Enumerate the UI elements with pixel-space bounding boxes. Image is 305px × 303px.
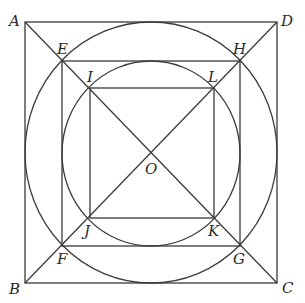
label-i: I: [86, 68, 94, 86]
label-d: D: [280, 12, 293, 30]
label-b: B: [8, 280, 20, 298]
label-j: J: [81, 222, 91, 240]
label-a: A: [7, 12, 20, 30]
label-f: F: [56, 250, 68, 268]
label-g: G: [233, 250, 245, 268]
label-h: H: [232, 40, 247, 58]
label-l: L: [207, 68, 218, 86]
geometry-diagram: A D B C E H F G I L J K O: [0, 0, 305, 303]
label-e: E: [56, 40, 68, 58]
label-k: K: [207, 222, 220, 240]
label-c: C: [282, 279, 294, 297]
label-o: O: [145, 160, 157, 178]
